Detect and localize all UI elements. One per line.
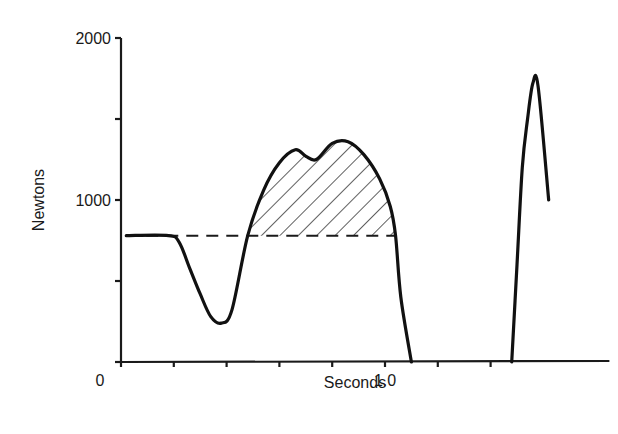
force-curve-landing-force [512, 75, 549, 362]
x-axis-title: Seconds [324, 374, 386, 391]
x-axis-line [121, 361, 609, 362]
y-tick-label: 1000 [75, 192, 111, 209]
x-tick-label: 0 [96, 372, 105, 389]
y-axis-title: Newtons [30, 169, 47, 231]
y-tick-label: 2000 [75, 30, 111, 47]
force-time-chart: 1000200001.0 Seconds Newtons [0, 0, 618, 434]
